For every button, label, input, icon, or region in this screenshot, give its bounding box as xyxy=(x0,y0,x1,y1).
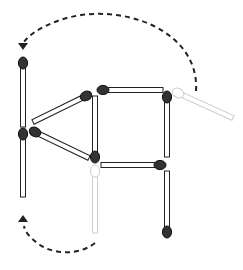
matchstick-head xyxy=(90,151,99,163)
matchstick-top-horizontal[interactable] xyxy=(97,85,163,94)
dashed-arc xyxy=(24,14,196,91)
arrowhead-icon xyxy=(18,43,28,50)
matchstick-stick xyxy=(38,131,91,160)
dashed-arc xyxy=(24,226,95,252)
matchstick-stick xyxy=(165,171,170,228)
move-arrow-ghost-lower-middle-vertical xyxy=(18,215,95,252)
matchstick-middle-vertical[interactable] xyxy=(90,96,99,163)
matchstick-head xyxy=(162,91,171,103)
arrowhead-icon xyxy=(18,215,28,222)
matchstick-diagram xyxy=(0,0,243,270)
matchsticks xyxy=(18,57,235,238)
matchstick-head xyxy=(18,57,27,69)
matchstick-stick xyxy=(93,96,98,153)
matchstick-stick xyxy=(21,67,26,127)
matchstick-head xyxy=(90,165,99,177)
matchstick-left-upper-vertical[interactable] xyxy=(18,57,27,127)
matchstick-stick xyxy=(107,88,163,93)
matchstick-head xyxy=(162,226,171,238)
matchstick-stick xyxy=(101,163,156,168)
matchstick-diagonal-upper[interactable] xyxy=(31,89,93,126)
move-arrow-ghost-right-diagonal xyxy=(18,14,196,91)
matchstick-ghost-lower-middle-vertical[interactable] xyxy=(90,165,99,233)
matchstick-middle-horizontal[interactable] xyxy=(101,160,166,169)
matchstick-stick xyxy=(21,138,26,197)
matchstick-stick xyxy=(181,92,234,120)
matchstick-stick xyxy=(32,96,84,125)
matchstick-right-lower-vertical[interactable] xyxy=(162,171,171,238)
matchstick-head xyxy=(97,85,109,94)
matchstick-ghost-right-diagonal[interactable] xyxy=(171,86,235,122)
matchstick-stick xyxy=(165,101,170,157)
matchstick-stick xyxy=(93,175,98,233)
matchstick-left-lower-vertical[interactable] xyxy=(18,128,27,197)
matchstick-head xyxy=(18,128,27,140)
matchstick-right-upper-vertical[interactable] xyxy=(162,91,171,157)
matchstick-head xyxy=(154,160,166,169)
matchstick-diagonal-lower[interactable] xyxy=(28,125,91,162)
